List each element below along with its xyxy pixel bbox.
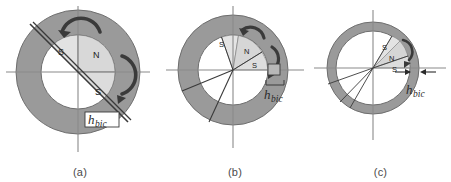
panel-b-diagram: h bic S N S [160,0,310,160]
hbic-sub-b: bic [271,94,283,104]
hbic-label-c: h [406,82,413,97]
panel-c: h bic S N S (c) [310,0,451,182]
figure-container: h bic S N S (a) [0,0,451,182]
panel-c-diagram: h bic S N S [310,0,451,160]
hbic-sub-c: bic [413,89,425,99]
panel-b: h bic S N S (b) [160,0,310,182]
pole-label-c-2: N [389,54,394,63]
hbic-sub-a: bic [95,119,107,129]
pole-label-b-3: S [252,61,257,70]
caption-b: (b) [160,166,310,178]
pole-label-a-3: S [95,87,101,97]
panel-a-diagram: h bic S N S [0,0,160,160]
pole-label-a-1: S [58,47,64,57]
pole-label-b-2: N [244,47,249,56]
pole-label-c-1: S [382,43,387,52]
panel-a: h bic S N S (a) [0,0,160,182]
caption-c: (c) [310,166,451,178]
hbic-callout-a: h bic [85,112,119,129]
pole-label-b-1: S [219,40,224,49]
caption-a: (a) [0,166,160,178]
hbic-label-a: h [88,112,95,127]
pole-label-c-3: S [392,65,397,74]
pole-label-a-2: N [93,50,100,60]
hbic-label-b: h [264,87,271,102]
